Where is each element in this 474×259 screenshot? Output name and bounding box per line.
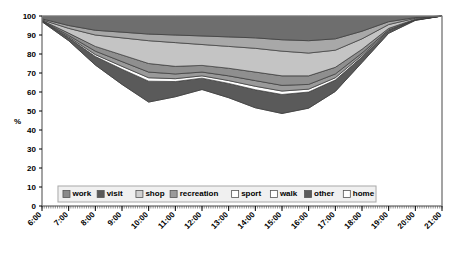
legend-item-other[interactable]: other bbox=[305, 189, 335, 198]
legend-label-home: home bbox=[353, 189, 375, 198]
legend-swatch-visit bbox=[97, 191, 104, 198]
legend-swatch-home bbox=[343, 191, 350, 198]
legend-label-sport: sport bbox=[241, 189, 261, 198]
y-tick-label: 80 bbox=[27, 50, 36, 59]
y-axis-title: % bbox=[14, 117, 21, 126]
y-tick-label: 50 bbox=[27, 107, 36, 116]
y-tick-label: 20 bbox=[27, 164, 36, 173]
legend-label-work: work bbox=[71, 189, 91, 198]
legend-swatch-other bbox=[305, 191, 312, 198]
y-tick-label: 70 bbox=[27, 69, 36, 78]
y-tick-label: 60 bbox=[27, 88, 36, 97]
legend-label-shop: shop bbox=[145, 189, 164, 198]
y-tick-label: 0 bbox=[32, 202, 37, 211]
y-tick-label: 30 bbox=[27, 145, 36, 154]
legend-swatch-work bbox=[63, 191, 70, 198]
y-tick-label: 40 bbox=[27, 126, 36, 135]
stacked-area-chart: 0102030405060708090100 % 6:007:008:009:0… bbox=[0, 0, 474, 259]
legend-swatch-sport bbox=[232, 191, 239, 198]
legend-swatch-shop bbox=[136, 191, 143, 198]
legend-item-shop[interactable]: shop bbox=[136, 189, 165, 198]
legend-item-home[interactable]: home bbox=[343, 189, 374, 198]
legend-label-walk: walk bbox=[279, 189, 298, 198]
legend-item-work[interactable]: work bbox=[63, 189, 92, 198]
legend-swatch-walk bbox=[270, 191, 277, 198]
chart-legend: workvisitshoprecreationsportwalkotherhom… bbox=[58, 186, 376, 202]
legend-item-recreation[interactable]: recreation bbox=[170, 189, 218, 198]
legend-swatch-recreation bbox=[170, 191, 177, 198]
y-tick-label: 10 bbox=[27, 183, 36, 192]
legend-label-visit: visit bbox=[107, 189, 123, 198]
legend-label-other: other bbox=[314, 189, 334, 198]
chart-canvas: 0102030405060708090100 % 6:007:008:009:0… bbox=[0, 0, 474, 259]
y-tick-label: 90 bbox=[27, 31, 36, 40]
legend-item-visit[interactable]: visit bbox=[97, 189, 123, 198]
legend-item-walk[interactable]: walk bbox=[270, 189, 297, 198]
legend-item-sport[interactable]: sport bbox=[232, 189, 262, 198]
series-bands bbox=[42, 16, 442, 206]
y-tick-label: 100 bbox=[23, 12, 37, 21]
legend-label-recreation: recreation bbox=[180, 189, 219, 198]
